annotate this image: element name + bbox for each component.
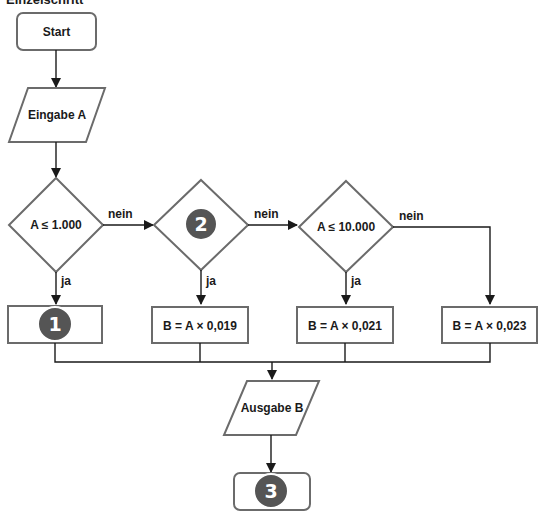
edge-label-yes-3: ja [350,274,361,288]
output-label: Ausgabe B [241,401,304,415]
edge-label-no-1: nein [108,207,133,221]
input-label: Eingabe A [28,108,87,122]
flowchart: Einzelschritt Start Eingabe A A ≤ 1.000 … [0,0,545,518]
start-node: Start [17,13,96,50]
edge-label-yes-2: ja [205,274,216,288]
end-node: 3 [234,473,310,510]
process1-node: 1 [8,306,102,343]
start-label: Start [43,25,70,39]
badge-2-number: 2 [194,213,207,235]
process4-label: B = A × 0,023 [453,319,527,333]
process2-label: B = A × 0,019 [163,319,237,333]
diagram-title: Einzelschritt [6,0,84,7]
badge-3-number: 3 [264,480,277,502]
edge-label-yes-1: ja [60,274,71,288]
decision3-label: A ≤ 10.000 [317,220,376,234]
edge-label-no-2: nein [254,207,279,221]
decision1-label: A ≤ 1.000 [30,218,82,232]
decision2-node: 2 [154,180,248,270]
edge-label-no-3: nein [399,209,424,223]
process3-label: B = A × 0,021 [308,319,382,333]
decision3-node: A ≤ 10.000 [299,181,393,272]
output-node: Ausgabe B [224,381,319,435]
process3-node: B = A × 0,021 [297,307,393,343]
merge-line [55,343,490,362]
process2-node: B = A × 0,019 [152,307,248,343]
input-node: Eingabe A [9,88,105,142]
process4-node: B = A × 0,023 [442,307,537,343]
badge-1-number: 1 [48,313,61,335]
arrow-decision3-process4 [393,227,490,304]
decision1-node: A ≤ 1.000 [9,178,103,272]
